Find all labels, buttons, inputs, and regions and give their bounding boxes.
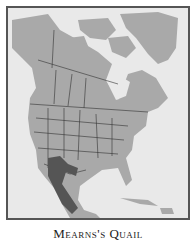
map-caption: Mearns's Quail [0, 226, 196, 242]
map-frame [6, 6, 190, 220]
north-america-map [8, 8, 188, 218]
